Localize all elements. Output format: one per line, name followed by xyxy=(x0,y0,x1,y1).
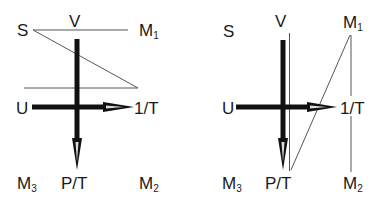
right-label-m3: M3 xyxy=(222,174,242,194)
left-label-m3-main: M xyxy=(17,174,31,193)
right-down-arrowhead-icon xyxy=(278,138,288,170)
left-diagram: S V M1 U 1/T M3 P/T M2 xyxy=(16,12,159,194)
right-right-arrowhead-icon xyxy=(307,102,337,112)
left-label-v: V xyxy=(69,12,81,31)
left-label-m3: M3 xyxy=(17,174,37,194)
right-label-v: V xyxy=(275,12,287,31)
right-label-m3-sub: 3 xyxy=(236,183,242,194)
right-label-m1: M1 xyxy=(343,13,363,33)
right-label-1-over-t: 1/T xyxy=(340,99,365,118)
right-label-m2: M2 xyxy=(343,174,363,194)
left-label-s: S xyxy=(17,21,28,40)
right-label-m3-main: M xyxy=(222,174,236,193)
left-label-m1-main: M xyxy=(139,21,153,40)
left-label-m2-sub: 2 xyxy=(153,183,159,194)
right-vertical-axis-bar xyxy=(281,40,286,139)
left-label-m3-sub: 3 xyxy=(31,183,37,194)
left-label-1-over-t: 1/T xyxy=(134,99,159,118)
right-diagram: S V M1 U 1/T M3 P/T M2 xyxy=(222,12,365,194)
left-label-m2: M2 xyxy=(139,174,159,194)
figure-canvas: S V M1 U 1/T M3 P/T M2 S V M1 U 1/T M xyxy=(0,0,383,200)
right-label-u: U xyxy=(222,99,234,118)
left-right-arrowhead-icon xyxy=(103,102,134,112)
right-label-m1-sub: 1 xyxy=(357,22,363,33)
right-label-m2-sub: 2 xyxy=(357,183,363,194)
left-down-arrowhead-icon xyxy=(72,138,82,170)
right-label-p-over-t: P/T xyxy=(265,174,291,193)
left-label-p-over-t: P/T xyxy=(61,174,87,193)
left-label-u: U xyxy=(16,99,28,118)
left-diagonal-line xyxy=(33,30,138,88)
right-horizontal-axis-bar xyxy=(236,105,308,110)
thermodynamic-square-figure: S V M1 U 1/T M3 P/T M2 S V M1 U 1/T M xyxy=(0,0,383,200)
left-vertical-axis-bar xyxy=(75,39,80,139)
left-label-m2-main: M xyxy=(139,174,153,193)
left-horizontal-axis-bar xyxy=(32,105,104,110)
left-label-m1: M1 xyxy=(139,21,159,41)
right-label-m2-main: M xyxy=(343,174,357,193)
right-label-m1-main: M xyxy=(343,13,357,32)
left-label-m1-sub: 1 xyxy=(153,30,159,41)
right-label-s: S xyxy=(223,22,234,41)
